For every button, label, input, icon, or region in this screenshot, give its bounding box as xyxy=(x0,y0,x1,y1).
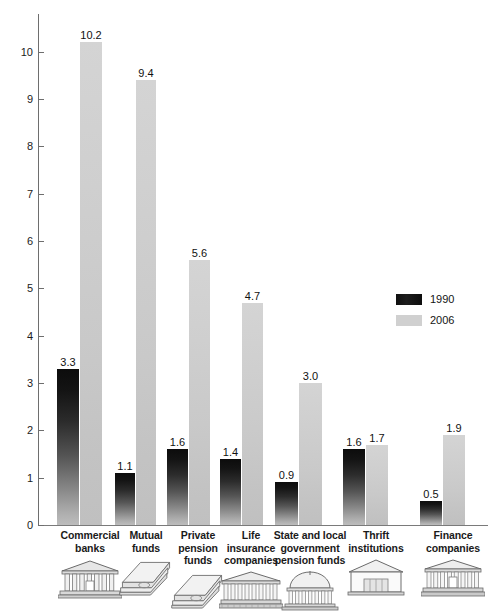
y-tick-label: 2 xyxy=(0,424,33,436)
bar-1990: 3.3 xyxy=(57,369,79,525)
category-6: Thrift institutions xyxy=(338,529,414,597)
y-tick-label: 4 xyxy=(0,330,33,342)
bar-group: 1.44.7 xyxy=(220,14,263,525)
bar-value-2006: 3.0 xyxy=(303,370,318,382)
category-7: Finance companies xyxy=(416,529,490,598)
bar-group: 1.61.7 xyxy=(343,14,388,525)
legend-item-2006: 2006 xyxy=(396,311,488,329)
bar-value-2006: 10.2 xyxy=(80,29,101,41)
y-tick-label: 9 xyxy=(0,93,33,105)
bar-group: 1.19.4 xyxy=(115,14,156,525)
legend-swatch-1990 xyxy=(396,294,422,305)
bar-value-2006: 4.7 xyxy=(245,290,260,302)
bar-1990: 0.5 xyxy=(420,501,442,525)
y-tick-label: 6 xyxy=(0,235,33,247)
savings-bank-icon xyxy=(344,555,408,597)
bar-2006: 4.7 xyxy=(242,303,263,525)
bar-group: 1.65.6 xyxy=(167,14,210,525)
category-label: Thrift institutions xyxy=(338,529,414,554)
y-tick-label: 8 xyxy=(0,140,33,152)
y-tick-label: 0 xyxy=(0,519,33,531)
bar-2006: 1.7 xyxy=(366,445,388,525)
bar-2006: 1.9 xyxy=(443,435,465,525)
bar-1990: 1.6 xyxy=(167,449,188,525)
bar-group: 3.310.2 xyxy=(57,14,102,525)
bar-value-1990: 1.6 xyxy=(346,436,361,448)
bar-value-1990: 1.4 xyxy=(223,446,238,458)
bar-chart: 012345678910 3.310.21.19.41.65.61.44.70.… xyxy=(0,0,493,611)
bank-building-icon xyxy=(58,555,122,599)
bar-1990: 1.1 xyxy=(115,473,135,525)
y-tick-label: 3 xyxy=(0,377,33,389)
bar-group: 0.51.9 xyxy=(420,14,465,525)
bar-value-1990: 3.3 xyxy=(60,356,75,368)
bar-value-2006: 5.6 xyxy=(192,247,207,259)
y-tick-0: 0 xyxy=(0,525,45,526)
y-axis-ticks: 012345678910 xyxy=(0,0,38,611)
y-tick-mark xyxy=(38,525,44,526)
bar-2006: 3.0 xyxy=(299,383,322,525)
bar-value-2006: 9.4 xyxy=(138,67,153,79)
bar-2006: 10.2 xyxy=(80,42,102,525)
legend-label-2006: 2006 xyxy=(430,314,454,326)
y-tick-label: 10 xyxy=(0,46,33,58)
bar-1990: 1.4 xyxy=(220,459,241,525)
plot-area: 3.310.21.19.41.65.61.44.70.93.01.61.70.5… xyxy=(38,14,493,525)
legend: 1990 2006 xyxy=(396,290,488,332)
y-tick-label: 7 xyxy=(0,188,33,200)
bar-value-1990: 0.5 xyxy=(423,488,438,500)
bar-value-1990: 1.1 xyxy=(117,460,132,472)
bar-value-1990: 0.9 xyxy=(279,469,294,481)
legend-swatch-2006 xyxy=(396,315,422,326)
bar-1990: 1.6 xyxy=(343,449,365,525)
bar-1990: 0.9 xyxy=(275,482,298,525)
x-axis-line xyxy=(38,525,488,526)
category-label: Finance companies xyxy=(416,529,490,554)
bar-value-1990: 1.6 xyxy=(170,436,185,448)
bar-2006: 5.6 xyxy=(189,260,210,525)
bar-value-2006: 1.9 xyxy=(446,422,461,434)
legend-label-1990: 1990 xyxy=(430,293,454,305)
y-tick-label: 5 xyxy=(0,282,33,294)
domed-rotunda-icon xyxy=(278,568,342,611)
legend-item-1990: 1990 xyxy=(396,290,488,308)
bar-2006: 9.4 xyxy=(136,80,156,525)
bar-group: 0.93.0 xyxy=(275,14,322,525)
classical-bank-icon xyxy=(421,555,485,598)
y-tick-label: 1 xyxy=(0,472,33,484)
bar-value-2006: 1.7 xyxy=(369,432,384,444)
